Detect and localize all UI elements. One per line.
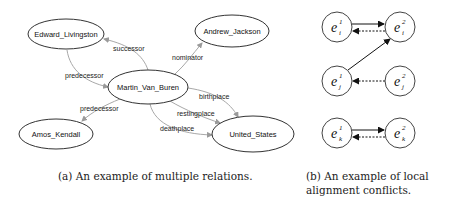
node-label-edward: Edward_Livingston <box>34 30 97 39</box>
edge-successor: successor <box>104 39 148 70</box>
svg-text:e: e <box>394 20 400 35</box>
svg-text:2: 2 <box>402 72 406 80</box>
entity-ei1: e 1 i <box>322 12 352 42</box>
caption-b-line2: alignment conflicts. <box>306 184 411 197</box>
node-united-states: United_States <box>212 116 294 152</box>
arrow-ej1-to-ei2 <box>348 39 390 70</box>
node-amos-kendall: Amos_Kendall <box>19 119 93 149</box>
svg-text:1: 1 <box>339 18 343 26</box>
node-label-amos: Amos_Kendall <box>32 130 81 139</box>
svg-text:i: i <box>402 29 404 37</box>
edge-label-predecessor-2: predecessor <box>80 105 119 113</box>
entity-ek1: e 1 k <box>322 118 352 148</box>
edge-nominator: nominator <box>172 43 204 74</box>
svg-text:2: 2 <box>402 124 406 132</box>
panel-b-alignment: e 1 i e 2 i e 1 j e 2 j e 1 k <box>322 12 415 148</box>
edge-label-nominator: nominator <box>172 54 204 61</box>
entity-ej1: e 1 j <box>322 66 352 96</box>
edge-restingplace: restingplace <box>170 101 220 123</box>
svg-text:1: 1 <box>339 124 343 132</box>
svg-text:j: j <box>401 83 404 91</box>
node-label-martin: Martin_Van_Buren <box>117 83 179 92</box>
node-label-us: United_States <box>229 130 276 139</box>
svg-text:e: e <box>331 74 337 89</box>
svg-text:1: 1 <box>339 72 343 80</box>
svg-text:e: e <box>331 126 337 141</box>
node-andrew-jackson: Andrew_Jackson <box>195 15 269 47</box>
caption-a: (a) An example of multiple relations. <box>58 170 253 183</box>
svg-text:2: 2 <box>402 18 406 26</box>
edge-label-predecessor-1: predecessor <box>65 72 104 80</box>
node-label-andrew: Andrew_Jackson <box>203 27 260 36</box>
panel-a-graph: successor nominator predecessor predeces… <box>19 15 294 152</box>
entity-ej2: e 2 j <box>385 66 415 96</box>
svg-text:j: j <box>338 83 341 91</box>
edge-label-deathplace: deathplace <box>160 125 194 133</box>
edge-predecessor-edward-martin: predecessor <box>65 50 108 87</box>
edge-predecessor-martin-amos: predecessor <box>80 99 120 121</box>
edge-label-restingplace: restingplace <box>177 110 215 118</box>
edge-label-successor: successor <box>113 45 145 52</box>
entity-ei2: e 2 i <box>385 12 415 42</box>
edge-label-birthplace: birthplace <box>199 93 229 101</box>
node-edward-livingston: Edward_Livingston <box>28 19 104 49</box>
edge-deathplace: deathplace <box>150 104 212 135</box>
caption-b-line1: (b) An example of local <box>306 170 429 183</box>
svg-text:e: e <box>394 74 400 89</box>
entity-ek2: e 2 k <box>385 118 415 148</box>
svg-text:e: e <box>331 20 337 35</box>
svg-text:i: i <box>339 29 341 37</box>
svg-text:e: e <box>394 126 400 141</box>
node-martin-van-buren: Martin_Van_Buren <box>108 70 188 104</box>
